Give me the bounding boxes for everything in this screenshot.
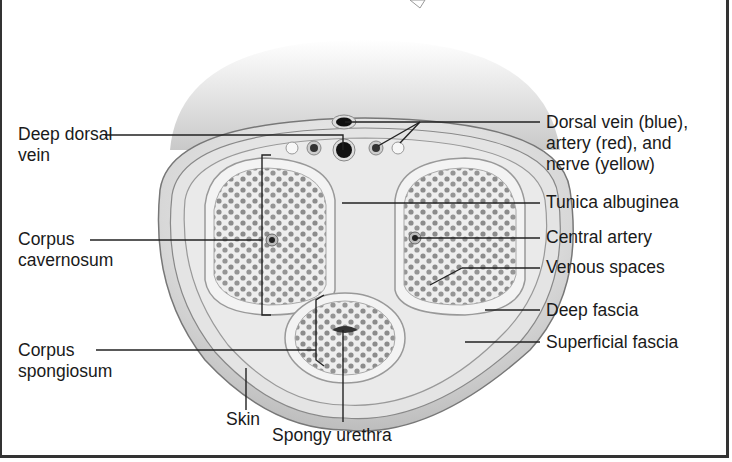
right-dorsal-nerve xyxy=(392,142,404,154)
corpus-spongiosum xyxy=(295,301,395,375)
label-deep-fascia: Deep fascia xyxy=(546,300,638,321)
label-superficial-fascia: Superficial fascia xyxy=(546,332,678,353)
label-spongy-urethra: Spongy urethra xyxy=(272,425,392,446)
label-corpus-spongiosum: Corpus spongiosum xyxy=(18,340,112,382)
label-dorsal-vessels: Dorsal vein (blue), artery (red), and ne… xyxy=(546,112,688,175)
label-deep-dorsal-vein: Deep dorsal vein xyxy=(18,124,112,166)
top-artifact xyxy=(410,0,425,8)
label-central-artery: Central artery xyxy=(546,227,652,248)
label-skin: Skin xyxy=(226,409,260,430)
label-corpus-cavernosum: Corpus cavernosum xyxy=(18,229,113,271)
deep-dorsal-vein-vessel xyxy=(336,142,352,158)
label-tunica-albuginea: Tunica albuginea xyxy=(546,192,679,213)
left-dorsal-nerve xyxy=(286,142,298,154)
left-dorsal-artery xyxy=(310,144,318,152)
label-venous-spaces: Venous spaces xyxy=(546,257,665,278)
